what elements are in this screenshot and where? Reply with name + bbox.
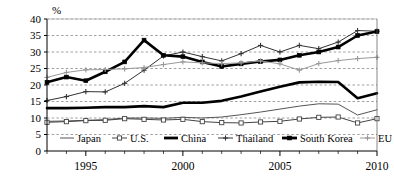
line-chart: 0510152025303540 1995200020052010 % Japa…: [0, 0, 394, 181]
y-tick-label-15: 15: [30, 95, 42, 107]
x-tick-label-2010: 2010: [366, 160, 389, 172]
y-tick-label-10: 10: [30, 112, 42, 124]
y-tick-label-5: 5: [36, 128, 42, 140]
y-axis-unit-label: %: [52, 4, 61, 16]
chart-container: 0510152025303540 1995200020052010 % Japa…: [0, 0, 394, 181]
y-tick-label-20: 20: [30, 79, 42, 91]
x-tick-label-1995: 1995: [74, 160, 97, 172]
legend-label-south-korea: South Korea: [300, 133, 353, 144]
legend-label-eu: EU: [378, 133, 392, 144]
y-tick-label-0: 0: [36, 145, 42, 157]
y-tick-label-40: 40: [30, 13, 42, 25]
legend-label-u-s-: U.S.: [130, 133, 149, 144]
x-tick-label-2000: 2000: [171, 160, 194, 172]
y-tick-label-30: 30: [30, 46, 42, 58]
y-tick-label-25: 25: [30, 62, 42, 74]
legend-label-thailand: Thailand: [236, 133, 274, 144]
legend-label-china: China: [181, 133, 206, 144]
x-axis-ticks: [47, 151, 377, 156]
legend-label-japan: Japan: [77, 133, 102, 144]
y-tick-label-35: 35: [30, 29, 42, 41]
y-axis-tick-labels: 0510152025303540: [30, 13, 42, 157]
x-tick-label-2005: 2005: [268, 160, 291, 172]
x-axis-tick-labels: 1995200020052010: [74, 160, 388, 172]
